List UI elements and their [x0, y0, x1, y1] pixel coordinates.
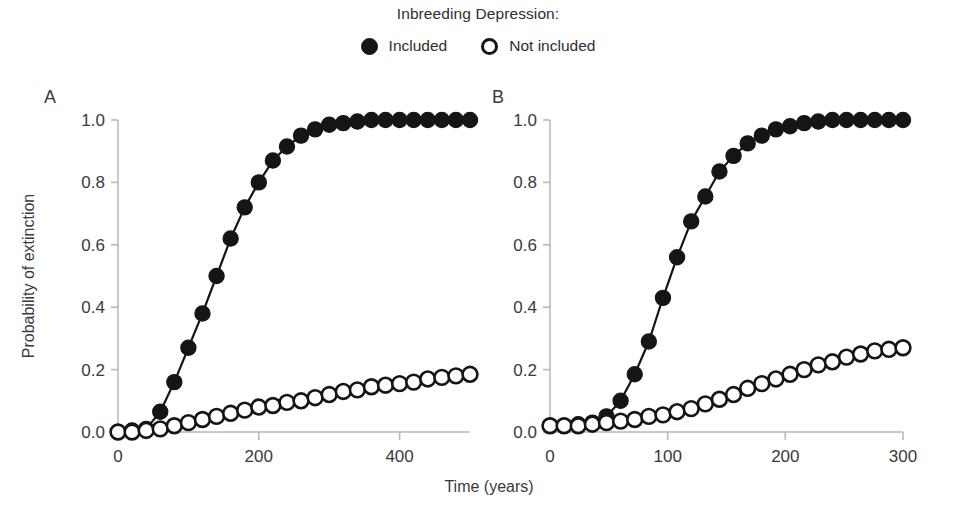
data-point [684, 401, 699, 416]
data-point [825, 354, 840, 369]
data-point [153, 421, 168, 436]
data-point [462, 112, 477, 127]
data-point [125, 425, 140, 440]
series-markers-A-1 [111, 367, 478, 440]
data-point [698, 397, 713, 412]
y-tick-label-B-3: 0.6 [513, 236, 537, 255]
data-point [265, 153, 280, 168]
data-point [364, 379, 379, 394]
panel-letter-B: B [492, 87, 504, 107]
data-point [543, 418, 558, 433]
y-tick-label-B-5: 1.0 [513, 111, 537, 130]
data-point [825, 112, 840, 127]
data-point [406, 112, 421, 127]
data-point [223, 406, 238, 421]
data-point [599, 415, 614, 430]
x-tick-label-B-1: 100 [653, 447, 681, 466]
data-point [195, 306, 210, 321]
data-point [669, 250, 684, 265]
data-point [754, 128, 769, 143]
data-point [420, 112, 435, 127]
data-point [726, 387, 741, 402]
data-point [712, 164, 727, 179]
data-point [364, 112, 379, 127]
x-tick-label-A-2: 400 [385, 447, 413, 466]
data-point [139, 423, 154, 438]
data-point [265, 398, 280, 413]
data-point [322, 117, 337, 132]
data-point [811, 358, 826, 373]
data-point [896, 340, 911, 355]
data-point [797, 116, 812, 131]
data-point [881, 112, 896, 127]
data-point [167, 418, 182, 433]
data-point [209, 409, 224, 424]
data-point [712, 392, 727, 407]
data-point [853, 347, 868, 362]
data-point [378, 378, 393, 393]
y-tick-label-A-2: 0.4 [81, 298, 105, 317]
x-tick-label-A-0: 0 [113, 447, 122, 466]
data-point [867, 112, 882, 127]
data-point [641, 409, 656, 424]
data-point [571, 418, 586, 433]
data-point [294, 393, 309, 408]
data-point [434, 370, 449, 385]
data-point [406, 375, 421, 390]
data-point [627, 367, 642, 382]
data-point [881, 342, 896, 357]
x-axis-title: Time (years) [444, 478, 533, 495]
y-tick-label-B-1: 0.2 [513, 361, 537, 380]
y-tick-label-A-0: 0.0 [81, 423, 105, 442]
data-point [740, 136, 755, 151]
data-point [585, 417, 600, 432]
data-point [336, 116, 351, 131]
y-tick-label-B-0: 0.0 [513, 423, 537, 442]
data-point [670, 404, 685, 419]
data-point [336, 384, 351, 399]
data-point [613, 393, 628, 408]
data-point [684, 214, 699, 229]
y-tick-label-A-5: 1.0 [81, 111, 105, 130]
data-point [378, 112, 393, 127]
data-point [308, 390, 323, 405]
data-point [839, 112, 854, 127]
data-point [768, 122, 783, 137]
data-point [209, 268, 224, 283]
data-point [237, 403, 252, 418]
panel-B: B0.00.20.40.60.81.00100200300 [492, 87, 917, 466]
series-line-B-0 [550, 120, 903, 426]
data-point [448, 112, 463, 127]
data-point [420, 372, 435, 387]
data-point [350, 114, 365, 129]
data-point [641, 334, 656, 349]
y-tick-label-A-4: 0.8 [81, 173, 105, 192]
data-point [449, 368, 464, 383]
data-point [237, 200, 252, 215]
data-point [782, 119, 797, 134]
data-point [308, 122, 323, 137]
data-point [111, 425, 126, 440]
y-tick-label-A-1: 0.2 [81, 361, 105, 380]
data-point [153, 404, 168, 419]
data-point [740, 381, 755, 396]
data-point [322, 387, 337, 402]
data-point [223, 231, 238, 246]
data-point [167, 374, 182, 389]
data-point [655, 290, 670, 305]
data-point [195, 412, 210, 427]
panel-letter-A: A [44, 87, 56, 107]
x-tick-label-B-0: 0 [545, 447, 554, 466]
y-axis-title: Probability of extinction [20, 194, 37, 359]
data-point [463, 367, 478, 382]
data-point [853, 112, 868, 127]
data-point [181, 340, 196, 355]
data-point [557, 418, 572, 433]
plot-area: A0.00.20.40.60.81.00200400B0.00.20.40.60… [0, 0, 956, 505]
data-point [392, 112, 407, 127]
data-point [726, 148, 741, 163]
data-point [350, 382, 365, 397]
x-tick-label-A-1: 200 [245, 447, 273, 466]
data-point [251, 175, 266, 190]
data-point [627, 412, 642, 427]
